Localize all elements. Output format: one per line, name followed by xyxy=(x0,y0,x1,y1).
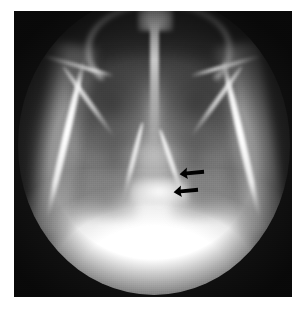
greater-wing-strut-left xyxy=(61,65,116,138)
dental-arch xyxy=(86,11,232,95)
infratemporal-line-right xyxy=(190,54,262,78)
infratemporal-line-left xyxy=(43,54,115,78)
greater-wing-strut-right xyxy=(189,65,244,138)
lateral-body-right xyxy=(210,40,288,237)
lateral-body-left xyxy=(20,40,98,237)
incisal-region xyxy=(138,11,173,31)
zygomatic-arch-right xyxy=(220,56,265,221)
figure-root xyxy=(0,0,307,313)
pterygoid-plate-left xyxy=(119,122,144,205)
zygomatic-arch-left xyxy=(43,56,88,221)
occiput-cervical-spine-overlap xyxy=(18,169,290,295)
maxillary-antrum-left xyxy=(66,56,151,155)
collimation-field xyxy=(18,11,290,295)
radiograph-plate xyxy=(14,11,292,297)
skull-base-soft-tissue xyxy=(29,37,279,265)
petrous-temporal-left xyxy=(78,181,138,220)
maxillary-antrum-right xyxy=(156,56,241,155)
nasal-septum xyxy=(150,11,159,145)
nasopharynx-shadow-left xyxy=(89,127,141,193)
